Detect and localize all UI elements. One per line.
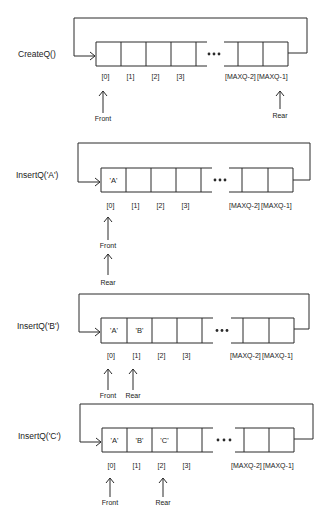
cell-value: 'B' <box>136 436 144 445</box>
index-label: [0] <box>107 352 115 360</box>
index-label: [MAXQ-2] <box>231 462 262 470</box>
front-pointer: Front <box>102 478 118 506</box>
pointer-label: Rear <box>155 499 171 506</box>
operation-label: InsertQ('B') <box>17 321 60 331</box>
wraparound-arrow <box>74 18 307 60</box>
index-label: [3] <box>183 352 191 360</box>
queue-panel: CreateQ()[0][1][2][3][MAXQ-2][MAXQ-1]Fro… <box>18 18 307 122</box>
operation-label: CreateQ() <box>18 49 56 59</box>
cell-value: 'A' <box>111 436 119 445</box>
index-label: [0] <box>108 462 116 470</box>
index-label: [MAXQ-1] <box>261 202 292 210</box>
rear-pointer: Rear <box>155 478 171 506</box>
ellipsis-icon <box>217 439 232 442</box>
queue-panel: InsertQ('B')'A'[0]'B'[1][2][3][MAXQ-2][M… <box>17 294 309 399</box>
front-pointer: Front <box>95 91 111 122</box>
index-label: [MAXQ-2] <box>225 73 256 81</box>
queue-panel: InsertQ('A')'A'[0][1][2][3][MAXQ-2][MAXQ… <box>16 143 310 286</box>
index-label: [1] <box>133 352 141 360</box>
index-label: [2] <box>158 352 166 360</box>
pointer-label: Front <box>100 392 116 399</box>
index-label: [3] <box>182 202 190 210</box>
pointer-label: Front <box>100 242 116 249</box>
index-label: [3] <box>177 73 185 81</box>
cell-value: 'C' <box>160 436 169 445</box>
rear-pointer: Rear <box>272 91 288 119</box>
rear-pointer: Rear <box>100 254 116 286</box>
queue-array <box>96 42 288 66</box>
front-pointer: Front <box>100 217 116 249</box>
index-label: [MAXQ-1] <box>263 462 294 470</box>
index-label: [MAXQ-1] <box>257 73 288 81</box>
cell-value: 'B' <box>136 326 144 335</box>
ellipsis-icon <box>208 53 221 56</box>
ellipsis-icon <box>216 329 229 332</box>
pointer-label: Rear <box>272 112 288 119</box>
circular-queue-diagram: CreateQ()[0][1][2][3][MAXQ-2][MAXQ-1]Fro… <box>0 0 331 526</box>
ellipsis-icon <box>214 179 227 182</box>
queue-panel: InsertQ('C')'A'[0]'B'[1]'C'[2][3][MAXQ-2… <box>18 404 313 506</box>
queue-array <box>101 318 294 343</box>
pointer-label: Rear <box>100 279 116 286</box>
index-label: [MAXQ-2] <box>230 352 261 360</box>
index-label: [0] <box>107 202 115 210</box>
queue-array <box>101 168 293 192</box>
operation-label: InsertQ('A') <box>16 170 59 180</box>
pointer-label: Front <box>102 499 118 506</box>
index-label: [2] <box>158 462 166 470</box>
pointer-label: Rear <box>125 392 141 399</box>
index-label: [MAXQ-1] <box>262 352 293 360</box>
index-label: [MAXQ-2] <box>229 202 260 210</box>
cell-value: 'A' <box>110 176 118 185</box>
operation-label: InsertQ('C') <box>18 431 61 441</box>
index-label: [1] <box>133 462 141 470</box>
rear-pointer: Rear <box>125 369 141 399</box>
index-label: [1] <box>132 202 140 210</box>
index-label: [0] <box>102 73 110 81</box>
index-label: [2] <box>157 202 165 210</box>
index-label: [3] <box>183 462 191 470</box>
queue-array <box>102 428 294 452</box>
front-pointer: Front <box>100 369 116 399</box>
index-label: [1] <box>127 73 135 81</box>
cell-value: 'A' <box>110 326 118 335</box>
pointer-label: Front <box>95 115 111 122</box>
index-label: [2] <box>152 73 160 81</box>
